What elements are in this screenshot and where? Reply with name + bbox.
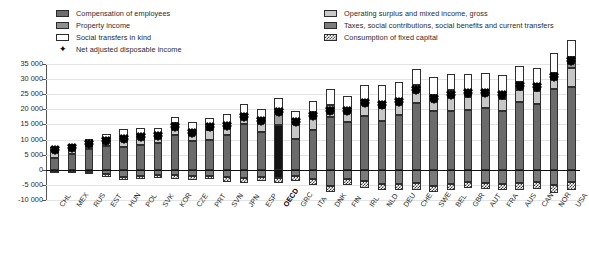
- net-income-marker: [291, 117, 301, 127]
- diamond-marker-icon: ✦: [56, 46, 69, 53]
- bar-group-kor[interactable]: [171, 64, 180, 200]
- net-income-marker: [480, 88, 490, 98]
- net-income-marker: [411, 85, 421, 95]
- plot-area: [46, 64, 580, 200]
- bar-segment-comp: [68, 154, 77, 170]
- net-income-marker: [515, 81, 525, 91]
- legend-item-prop[interactable]: Property income: [56, 20, 324, 31]
- legend-swatch-comp: [56, 10, 69, 17]
- bar-segment-comp: [533, 104, 542, 169]
- legend-item-oper[interactable]: Operating surplus and mixed income, gros…: [324, 8, 580, 19]
- bar-segment-cfc: [515, 183, 524, 190]
- bar-segment-cfc: [68, 171, 77, 173]
- bar-segment-comp: [291, 139, 300, 170]
- bar-segment-cfc: [171, 175, 180, 179]
- y-axis-tick: [42, 185, 46, 186]
- bar-group-fin[interactable]: [343, 64, 352, 200]
- bar-segment-cfc: [102, 174, 111, 177]
- bar-group-oecd[interactable]: [274, 64, 283, 200]
- bar-segment-tax: [223, 170, 232, 177]
- bar-group-svn[interactable]: [223, 64, 232, 200]
- bar-group-hun[interactable]: [119, 64, 128, 200]
- y-axis-tick-label: 10 000: [20, 136, 43, 144]
- bar-segment-tax: [533, 170, 542, 182]
- legend-item-cfc[interactable]: Consumption of fixed capital: [324, 32, 580, 43]
- legend-swatch-tax: [324, 22, 337, 29]
- bar-segment-comp: [447, 111, 456, 169]
- net-income-marker: [119, 134, 129, 144]
- bar-group-nld[interactable]: [378, 64, 387, 200]
- bar-group-bel[interactable]: [447, 64, 456, 200]
- bar-segment-cfc: [50, 171, 59, 173]
- bar-group-swe[interactable]: [429, 64, 438, 200]
- bar-segment-comp: [343, 122, 352, 169]
- bar-group-nor[interactable]: [550, 64, 559, 200]
- bar-segment-soc: [326, 89, 335, 105]
- bar-group-est[interactable]: [102, 64, 111, 200]
- bar-segment-comp: [257, 132, 266, 169]
- y-axis-tick: [42, 94, 46, 95]
- bar-segment-cfc: [326, 186, 335, 191]
- legend-label-nadi: Net adjusted disposable income: [76, 45, 182, 54]
- bar-segment-cfc: [274, 178, 283, 183]
- net-income-marker: [377, 100, 387, 110]
- bar-group-mex[interactable]: [68, 64, 77, 200]
- y-axis-tick-label: -5 000: [22, 181, 43, 189]
- y-axis-tick-label: -10 000: [18, 196, 43, 204]
- bar-group-fra[interactable]: [498, 64, 507, 200]
- bar-group-deu[interactable]: [395, 64, 404, 200]
- y-axis-tick: [42, 109, 46, 110]
- legend-item-tax[interactable]: Taxes, social contributions, social bene…: [324, 20, 580, 31]
- legend-column-left: Compensation of employeesProperty income…: [56, 8, 324, 56]
- bar-segment-oper: [533, 91, 542, 105]
- bar-group-dnk[interactable]: [326, 64, 335, 200]
- bar-segment-cfc: [533, 182, 542, 189]
- bar-group-grc[interactable]: [291, 64, 300, 200]
- bar-group-irl[interactable]: [360, 64, 369, 200]
- bar-segment-soc: [515, 66, 524, 82]
- y-axis-tick: [42, 79, 46, 80]
- bar-segment-comp: [188, 141, 197, 170]
- legend-label-oper: Operating surplus and mixed income, gros…: [344, 9, 488, 18]
- net-income-marker: [308, 111, 318, 121]
- bar-segment-tax: [515, 170, 524, 183]
- net-income-marker: [256, 116, 266, 126]
- bar-group-esp[interactable]: [257, 64, 266, 200]
- bar-segment-tax: [429, 170, 438, 186]
- legend-item-soc[interactable]: Social transfers in kind: [56, 32, 324, 43]
- legend-item-nadi[interactable]: ✦Net adjusted disposable income: [56, 44, 324, 55]
- legend-item-comp[interactable]: Compensation of employees: [56, 8, 324, 19]
- bar-group-chl[interactable]: [50, 64, 59, 200]
- bar-segment-comp: [464, 110, 473, 170]
- bar-segment-comp: [205, 140, 214, 170]
- legend-swatch-cfc: [324, 34, 337, 41]
- bar-segment-comp: [119, 147, 128, 170]
- bar-segment-tax: [343, 170, 352, 179]
- bar-group-rus[interactable]: [85, 64, 94, 200]
- net-income-marker: [342, 106, 352, 116]
- net-income-marker: [67, 143, 77, 153]
- bar-segment-tax: [395, 170, 404, 184]
- bar-segment-tax: [360, 170, 369, 181]
- net-income-marker: [101, 136, 111, 146]
- bar-segment-comp: [412, 103, 421, 169]
- bar-segment-comp: [360, 116, 369, 170]
- y-axis-tick-label: 20 000: [20, 105, 43, 113]
- bar-group-gbr[interactable]: [464, 64, 473, 200]
- bar-group-usa[interactable]: [567, 64, 576, 200]
- bar-group-jpn[interactable]: [240, 64, 249, 200]
- bar-segment-comp: [85, 149, 94, 170]
- y-axis-tick-label: 5 000: [25, 151, 44, 159]
- bar-segment-soc: [567, 40, 576, 57]
- bar-segment-cfc: [136, 176, 145, 179]
- bar-segment-cfc: [567, 182, 576, 190]
- bar-segment-comp: [309, 130, 318, 169]
- legend-label-cfc: Consumption of fixed capital: [344, 33, 438, 42]
- bar-group-ita[interactable]: [309, 64, 318, 200]
- bar-segment-soc: [412, 69, 421, 84]
- bar-segment-soc: [550, 53, 559, 72]
- net-income-marker: [170, 122, 180, 132]
- bar-group-aut[interactable]: [481, 64, 490, 200]
- y-axis-tick-label: 25 000: [20, 90, 43, 98]
